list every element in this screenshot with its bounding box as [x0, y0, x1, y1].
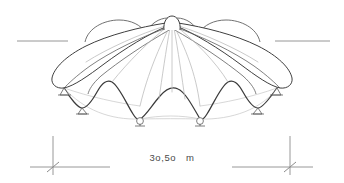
anchor-point-right	[251, 108, 264, 114]
anchor-leg-icon	[78, 108, 87, 114]
canopy-outer-right-panel	[176, 23, 292, 88]
anchor-leg-icon	[253, 108, 262, 114]
anchor-points-group	[58, 88, 283, 126]
anchor-ring-icon	[137, 118, 144, 125]
dimension-label: 3o,5o m	[0, 152, 344, 163]
ridge-line-5	[175, 28, 200, 106]
anchor-ring-icon	[197, 118, 204, 125]
elevation-drawing: 3o,5o m	[0, 0, 344, 183]
canopy-front-scalloped-edge-group	[64, 81, 277, 119]
canopy-outer-left-panel	[52, 23, 168, 88]
canopy-scallop-edge	[64, 81, 277, 119]
ridge-line-2	[159, 28, 170, 99]
ridge-line-1	[140, 28, 169, 106]
anchor-point-left	[76, 108, 89, 114]
anchor-point-outer-left	[58, 88, 71, 95]
